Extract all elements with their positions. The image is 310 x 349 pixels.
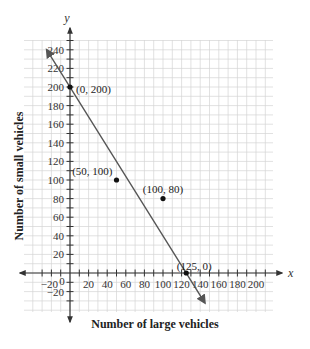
x-tick-label: 40 — [102, 278, 114, 290]
data-point — [160, 196, 165, 201]
point-label: (0, 200) — [76, 83, 111, 96]
x-tick-label: 120 — [173, 278, 190, 290]
y-tick-label: 60 — [53, 211, 65, 223]
chart: −20020406080100120140160180200−202040608… — [0, 0, 310, 349]
x-tick-label: 180 — [229, 278, 246, 290]
x-tick-label: 140 — [192, 278, 209, 290]
data-point — [114, 177, 119, 182]
x-axis-variable: x — [287, 266, 294, 280]
point-label: (125, 0) — [177, 260, 212, 273]
y-tick-label: 40 — [53, 230, 65, 242]
y-axis-title: Number of small vehicles — [12, 111, 26, 240]
x-tick-label: 160 — [211, 278, 228, 290]
y-axis-variable: y — [63, 11, 70, 25]
x-tick-label: 200 — [248, 278, 265, 290]
y-tick-label: 80 — [53, 193, 65, 205]
x-axis-title: Number of large vehicles — [91, 317, 219, 331]
x-tick-label: 100 — [155, 278, 172, 290]
y-tick-label: 180 — [48, 100, 65, 112]
point-label: (100, 80) — [143, 183, 184, 196]
y-tick-label: 160 — [48, 118, 65, 130]
data-point — [67, 84, 72, 89]
y-tick-label: 20 — [53, 248, 65, 260]
y-tick-label: 200 — [48, 81, 65, 93]
y-tick-label: 140 — [48, 137, 65, 149]
x-tick-label: 80 — [139, 278, 151, 290]
y-tick-label: −20 — [47, 286, 65, 298]
y-tick-label: 100 — [48, 174, 65, 186]
x-tick-label: 20 — [83, 278, 95, 290]
point-label: (50, 100) — [72, 165, 113, 178]
x-tick-label: 60 — [120, 278, 132, 290]
y-tick-label: 120 — [48, 155, 65, 167]
